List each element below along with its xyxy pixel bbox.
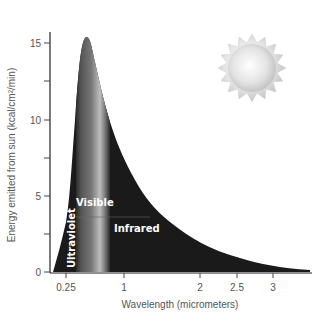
x-axis-title: Wavelength (micrometers) (122, 299, 239, 310)
y-tick-0: 0 (35, 267, 41, 278)
ultraviolet-label: Ultraviolet (66, 208, 77, 268)
infrared-label: Infrared (114, 223, 160, 234)
y-axis-title: Energy emitted from sun (kcal/cm²/min) (6, 68, 17, 243)
visible-band (76, 30, 110, 275)
y-tick-10: 10 (30, 115, 42, 126)
x-tick-2-5: 2.5 (230, 282, 244, 293)
solar-spectrum-chart: 0 5 10 15 0.25 1 2 2.5 3 Wavelength (mic… (0, 0, 320, 322)
visible-label: Visible (76, 197, 114, 208)
x-tick-2: 2 (197, 282, 203, 293)
y-axis: 0 5 10 15 (30, 32, 50, 278)
x-axis: 0.25 1 2 2.5 3 (50, 273, 312, 293)
y-tick-5: 5 (35, 191, 41, 202)
x-tick-0-25: 0.25 (56, 282, 76, 293)
x-tick-3: 3 (270, 282, 276, 293)
sun-icon (218, 34, 286, 102)
y-tick-15: 15 (30, 38, 42, 49)
x-tick-1: 1 (121, 282, 127, 293)
